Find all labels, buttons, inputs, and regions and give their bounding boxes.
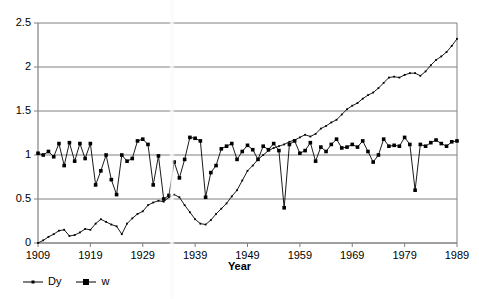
- marker-Dy-1909: [37, 242, 39, 244]
- marker-Dy-1980: [409, 72, 411, 74]
- marker-Dy-1952: [262, 154, 264, 156]
- marker-Dy-1974: [378, 87, 380, 89]
- marker-w-1968: [345, 145, 349, 149]
- marker-w-1943: [214, 164, 218, 168]
- marker-w-1914: [62, 164, 66, 168]
- marker-Dy-1917: [79, 232, 81, 234]
- marker-Dy-1938: [189, 211, 191, 213]
- marker-w-1935: [172, 160, 176, 164]
- marker-w-1957: [288, 143, 292, 147]
- marker-w-1987: [445, 144, 449, 148]
- marker-w-1928: [136, 139, 140, 143]
- legend-marker-w: [75, 277, 97, 287]
- marker-w-1960: [303, 149, 307, 153]
- marker-w-1923: [110, 178, 114, 182]
- marker-w-1911: [47, 150, 51, 154]
- marker-Dy-1933: [163, 201, 165, 203]
- marker-Dy-1970: [357, 102, 359, 104]
- marker-w-1949: [246, 144, 250, 148]
- tick-marks: [34, 23, 457, 247]
- legend-label-w: w: [101, 276, 109, 287]
- marker-Dy-1939: [194, 218, 196, 220]
- marker-Dy-1931: [152, 202, 154, 204]
- marker-Dy-1968: [346, 108, 348, 110]
- marker-w-1927: [130, 157, 134, 161]
- marker-w-1955: [277, 149, 281, 153]
- marker-w-1925: [120, 153, 124, 157]
- marker-w-1978: [398, 144, 402, 148]
- marker-w-1951: [256, 158, 260, 162]
- marker-w-1962: [314, 159, 318, 163]
- marker-Dy-1921: [100, 218, 102, 220]
- marker-w-1979: [403, 136, 407, 140]
- polyline-Dy: [38, 39, 457, 243]
- marker-w-1915: [68, 141, 72, 145]
- marker-w-1950: [251, 148, 255, 152]
- marker-w-1946: [230, 142, 234, 146]
- chart-container: 00.511.522.5 190919191929193919491959196…: [0, 0, 479, 299]
- marker-w-1934: [167, 194, 171, 198]
- marker-w-1971: [361, 139, 365, 143]
- marker-Dy-1941: [205, 224, 207, 226]
- legend-marker-dy: [22, 277, 44, 287]
- marker-w-1983: [424, 144, 428, 148]
- y-tick-label-0: 0: [25, 237, 31, 248]
- y-tick-label-2.5: 2.5: [16, 17, 31, 28]
- marker-Dy-1945: [226, 203, 228, 205]
- marker-w-1973: [371, 160, 375, 164]
- marker-Dy-1916: [74, 234, 76, 236]
- marker-w-1977: [392, 144, 396, 148]
- y-tick-label-1: 1: [25, 149, 31, 160]
- marker-w-1930: [146, 143, 150, 147]
- legend-item-w[interactable]: w: [75, 276, 109, 287]
- marker-Dy-1971: [362, 98, 364, 100]
- marker-Dy-1961: [309, 136, 311, 138]
- marker-w-1932: [157, 154, 161, 158]
- marker-Dy-1984: [430, 64, 432, 66]
- marker-w-1963: [319, 145, 323, 149]
- marker-Dy-1978: [398, 77, 400, 79]
- marker-Dy-1964: [325, 125, 327, 127]
- marker-w-1924: [115, 193, 119, 197]
- marker-w-1964: [324, 150, 328, 154]
- marker-Dy-1956: [283, 144, 285, 146]
- legend-label-dy: Dy: [48, 276, 61, 287]
- marker-w-1912: [52, 155, 56, 159]
- marker-Dy-1924: [116, 225, 118, 227]
- marker-Dy-1929: [142, 210, 144, 212]
- marker-w-1976: [387, 144, 391, 148]
- legend-item-dy[interactable]: Dy: [22, 276, 61, 287]
- marker-w-1926: [125, 159, 129, 163]
- marker-Dy-1988: [451, 45, 453, 47]
- gridlines: [38, 23, 457, 243]
- marker-Dy-1943: [215, 213, 217, 215]
- marker-w-1989: [455, 139, 459, 143]
- marker-Dy-1940: [199, 223, 201, 225]
- marker-w-1917: [78, 142, 82, 146]
- marker-Dy-1965: [330, 122, 332, 124]
- marker-w-1984: [429, 141, 433, 145]
- marker-w-1931: [151, 183, 155, 187]
- series-line-dy: [37, 38, 458, 244]
- x-axis-title: Year: [0, 260, 479, 272]
- marker-w-1952: [261, 144, 265, 148]
- marker-Dy-1955: [278, 145, 280, 147]
- marker-w-1958: [293, 139, 297, 143]
- marker-Dy-1960: [304, 134, 306, 136]
- marker-w-1913: [57, 142, 61, 146]
- marker-Dy-1987: [446, 51, 448, 53]
- marker-w-1972: [366, 150, 370, 154]
- marker-Dy-1932: [158, 200, 160, 202]
- marker-Dy-1930: [147, 204, 149, 206]
- marker-Dy-1911: [48, 236, 50, 238]
- marker-w-1918: [83, 157, 87, 161]
- marker-Dy-1985: [435, 59, 437, 61]
- marker-w-1910: [41, 153, 45, 157]
- marker-Dy-1979: [404, 74, 406, 76]
- marker-w-1909: [36, 151, 40, 155]
- marker-w-1939: [193, 136, 197, 140]
- marker-Dy-1982: [419, 75, 421, 77]
- marker-w-1933: [162, 197, 166, 201]
- marker-Dy-1967: [341, 114, 343, 116]
- marker-w-1937: [183, 158, 187, 162]
